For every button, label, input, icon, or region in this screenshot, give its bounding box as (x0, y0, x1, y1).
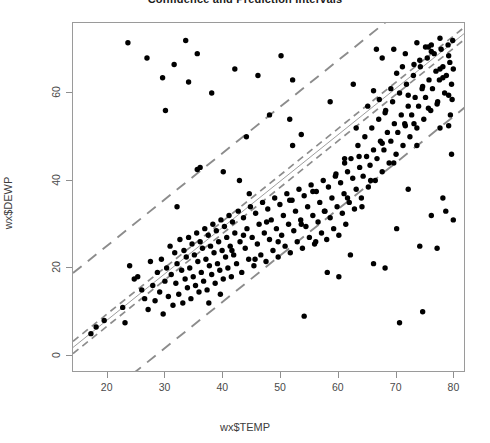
data-point (219, 248, 224, 253)
data-point (93, 324, 98, 329)
data-point (437, 125, 442, 130)
x-tick-mark (396, 372, 397, 378)
data-point (169, 272, 174, 277)
data-point (166, 294, 171, 299)
data-point (226, 213, 231, 218)
data-point (365, 103, 370, 108)
data-point (352, 206, 357, 211)
data-point (385, 130, 390, 135)
data-point (338, 180, 343, 185)
data-point (348, 252, 353, 257)
data-point (333, 171, 338, 176)
data-point (406, 187, 411, 192)
x-tick-mark (338, 372, 339, 378)
data-point (308, 182, 313, 187)
data-point (208, 243, 213, 248)
data-point (237, 239, 242, 244)
y-axis-label: wx$DEWP (2, 177, 14, 230)
data-point (218, 292, 223, 297)
data-point (319, 230, 324, 235)
data-point (170, 302, 175, 307)
data-point (355, 143, 360, 148)
data-point (88, 331, 93, 336)
data-point (426, 106, 431, 111)
data-point (351, 82, 356, 87)
data-point (447, 60, 452, 65)
data-point (139, 287, 144, 292)
data-point (434, 101, 439, 106)
data-point (416, 103, 421, 108)
data-point (281, 213, 286, 218)
data-point (345, 195, 350, 200)
data-point (299, 132, 304, 137)
data-point (255, 73, 260, 78)
x-axis-label: wx$TEMP (0, 421, 490, 433)
data-point (382, 265, 387, 270)
data-point (275, 239, 280, 244)
data-point (288, 250, 293, 255)
data-point (310, 213, 315, 218)
data-point (406, 103, 411, 108)
data-point (236, 208, 241, 213)
data-point (163, 108, 168, 113)
data-point (411, 121, 416, 126)
data-point (258, 252, 263, 257)
data-point (388, 86, 393, 91)
data-point (371, 147, 376, 152)
data-point (191, 274, 196, 279)
x-tick-label: 40 (216, 381, 228, 393)
x-tick-mark (280, 372, 281, 378)
x-tick-label: 80 (448, 381, 460, 393)
data-point (122, 320, 127, 325)
data-point (188, 296, 193, 301)
data-point (295, 239, 300, 244)
data-point (232, 230, 237, 235)
data-point (374, 156, 379, 161)
data-point (239, 270, 244, 275)
data-point (418, 64, 423, 69)
data-point (260, 200, 265, 205)
data-point (417, 57, 422, 62)
data-point (160, 75, 165, 80)
data-point (200, 246, 205, 251)
data-point (135, 274, 140, 279)
data-point (253, 211, 258, 216)
data-point (350, 176, 355, 181)
data-point (300, 246, 305, 251)
data-point (244, 134, 249, 139)
data-point (377, 97, 382, 102)
data-point (380, 55, 385, 60)
data-point (399, 112, 404, 117)
data-point (443, 208, 448, 213)
data-point (174, 204, 179, 209)
data-point (331, 226, 336, 231)
plot-panel (72, 22, 465, 372)
data-point (152, 298, 157, 303)
data-point (362, 134, 367, 139)
data-point (342, 160, 347, 165)
data-point (449, 82, 454, 87)
data-point (403, 51, 408, 56)
data-point (440, 75, 445, 80)
data-point (367, 162, 372, 167)
data-point (341, 191, 346, 196)
data-point (301, 193, 306, 198)
data-point (267, 112, 272, 117)
data-point (275, 254, 280, 259)
data-point (263, 259, 268, 264)
data-point (145, 307, 150, 312)
data-point (336, 274, 341, 279)
x-tick-label: 20 (101, 381, 113, 393)
y-tick-label: 0 (50, 345, 62, 365)
data-points (88, 36, 456, 337)
data-point (334, 204, 339, 209)
data-point (451, 217, 456, 222)
data-point (449, 152, 454, 157)
data-point (376, 117, 381, 122)
data-point (256, 222, 261, 227)
data-point (307, 235, 312, 240)
data-point (206, 232, 211, 237)
data-point (434, 246, 439, 251)
data-point (207, 263, 212, 268)
data-point (215, 261, 220, 266)
